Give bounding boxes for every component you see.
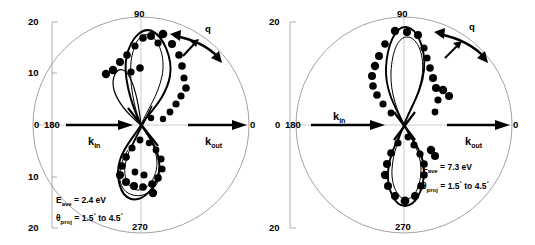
data-point: [168, 40, 176, 48]
data-point: [423, 54, 430, 61]
theta-value-low: 1.5: [82, 213, 94, 223]
data-point: [153, 147, 160, 154]
theta-range-to: to: [464, 181, 472, 191]
data-point: [381, 171, 389, 179]
secondary-fit-curve-upper: [391, 37, 423, 125]
y-tick-label-top: 20: [269, 17, 280, 27]
k-out-label: kout: [205, 136, 222, 149]
polar-panel-left: 20 10 0 10 20 90 180 0 270 kin kout q Ea…: [0, 0, 267, 245]
k-out-label: kout: [465, 136, 482, 149]
data-points-group: [368, 27, 453, 206]
k-out-arrow: [188, 120, 247, 130]
angle-label-90: 90: [397, 9, 408, 19]
angle-label-270: 270: [395, 222, 411, 232]
data-point: [411, 192, 419, 200]
data-point: [116, 171, 124, 179]
data-point: [154, 39, 161, 46]
degree-sign-low: °: [460, 180, 462, 186]
theta-value-high: 4.5: [109, 213, 121, 223]
energy-subscript: ave: [62, 201, 72, 207]
k-in-arrow: [311, 120, 385, 130]
degree-sign-high: °: [121, 212, 123, 218]
data-point: [410, 141, 417, 148]
theta-subscript: proj: [61, 219, 72, 225]
angle-label-0: 0: [250, 120, 255, 130]
q-label: q: [469, 22, 475, 32]
data-point: [140, 171, 147, 178]
data-point: [403, 28, 411, 36]
data-point: [431, 152, 439, 160]
q-radial-arrow: [183, 39, 199, 56]
data-point: [149, 189, 157, 197]
data-point: [128, 144, 135, 151]
data-point: [178, 62, 186, 70]
center-crossing-lines: [394, 112, 415, 140]
data-point: [157, 155, 164, 162]
data-point: [130, 182, 138, 190]
y-tick-label-bottom: 20: [269, 223, 280, 233]
degree-sign-high: °: [487, 180, 489, 186]
data-point: [414, 31, 422, 39]
y-tick-label-upper-mid: 10: [28, 68, 39, 78]
angle-label-90: 90: [134, 9, 145, 19]
data-point: [384, 182, 392, 190]
y-tick-label-lower-mid: 10: [28, 172, 39, 182]
data-point: [432, 109, 439, 116]
polar-plot-left-svg: [0, 0, 267, 245]
data-point: [177, 92, 184, 99]
data-point: [148, 180, 156, 188]
data-point: [369, 82, 377, 90]
data-point: [381, 40, 389, 48]
data-point: [371, 62, 379, 70]
data-point: [182, 84, 190, 92]
k-in-arrow: [66, 120, 133, 130]
data-point: [160, 116, 166, 122]
data-point: [146, 140, 152, 146]
data-point: [122, 153, 130, 161]
data-point: [172, 100, 179, 107]
data-point: [391, 192, 399, 200]
polar-panel-right: 20 0 20 90 180 0 270 kin kout q Eave = 7…: [267, 0, 534, 245]
theta-equals: =: [440, 181, 445, 191]
data-points-group: [102, 30, 190, 198]
data-point: [429, 74, 437, 82]
data-point: [137, 137, 144, 144]
energy-annotation: Eave = 7.3 eV: [422, 163, 472, 174]
data-point: [139, 34, 147, 42]
y-tick-label-bottom: 20: [28, 223, 39, 233]
data-point: [132, 169, 139, 176]
data-point: [379, 100, 386, 107]
data-point: [102, 70, 110, 78]
data-point: [158, 165, 165, 172]
k-in-label: kin: [333, 111, 345, 124]
data-point: [167, 109, 174, 116]
data-point: [383, 160, 391, 168]
energy-annotation: Eave = 2.4 eV: [56, 196, 106, 207]
energy-equals: =: [74, 195, 79, 205]
data-point: [388, 110, 395, 117]
data-point: [127, 68, 134, 75]
energy-value: 2.4 eV: [81, 195, 106, 205]
angle-label-180: 180: [44, 120, 60, 130]
data-point: [159, 30, 168, 39]
data-point: [122, 178, 130, 186]
data-point: [118, 162, 126, 170]
data-point: [394, 139, 401, 146]
q-label: q: [205, 24, 211, 34]
theta-value-low: 1.5: [448, 181, 460, 191]
data-point: [416, 150, 423, 157]
data-point: [405, 134, 412, 141]
data-point: [154, 174, 162, 182]
k-out-arrow: [447, 120, 510, 130]
data-point: [131, 42, 138, 49]
data-point: [136, 64, 144, 72]
theta-range-to: to: [98, 213, 106, 223]
theta-equals: =: [74, 213, 79, 223]
angle-label-180: 180: [285, 120, 301, 130]
angle-label-0: 0: [513, 120, 518, 130]
theta-subscript: proj: [427, 187, 438, 193]
data-point: [375, 52, 383, 60]
data-point: [373, 91, 381, 99]
k-out-subscript: out: [471, 142, 482, 149]
data-point: [123, 51, 131, 59]
